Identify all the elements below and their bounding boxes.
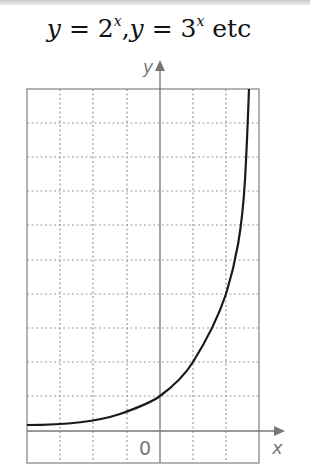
origin-label: 0: [139, 437, 151, 459]
axes: [27, 68, 278, 463]
chart-plot: y x 0: [0, 0, 310, 471]
y-axis-arrow-icon: [155, 60, 165, 71]
x-axis-arrow-icon: [274, 426, 285, 436]
plot-frame: [27, 89, 259, 463]
grid: [27, 89, 259, 463]
y-axis-label: y: [142, 57, 154, 77]
x-axis-label: x: [271, 437, 283, 458]
